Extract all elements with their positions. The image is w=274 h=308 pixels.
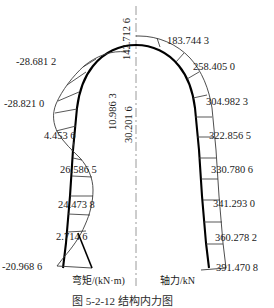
label-moment-5: 24.473 8 [58, 200, 95, 211]
label-crown-axial: 142.712 6 [122, 18, 133, 60]
figure-caption: 图 5-2-12 结构内力图 [72, 292, 173, 308]
label-axial-1: 183.744 3 [167, 36, 209, 47]
label-moment-3: 4.453 6 [44, 131, 76, 142]
label-moment-2: -28.821 0 [4, 99, 44, 110]
label-axial-2: 258.405 0 [193, 62, 235, 73]
label-moment-6: 2.714 6 [56, 232, 88, 243]
label-axial-8: 391.470 8 [216, 263, 258, 274]
label-axial-6: 341.293 0 [213, 199, 255, 210]
label-moment-7: -20.968 6 [2, 262, 42, 273]
label-crown-axial-2: 30.201 6 [124, 106, 135, 143]
label-axial-7: 360.278 2 [215, 233, 257, 244]
label-axial-4: 322.856 5 [209, 131, 251, 142]
axis-label-axial: 轴力/kN [160, 272, 195, 287]
label-axial-5: 330.780 6 [211, 165, 253, 176]
label-crown-moment: 10.986 3 [108, 93, 119, 130]
label-moment-1: -28.681 2 [16, 57, 56, 68]
label-moment-4: 26.586 5 [60, 165, 97, 176]
axis-label-moment: 弯矩/(kN·m) [72, 272, 125, 287]
label-axial-3: 304.982 3 [206, 97, 248, 108]
structure-outline-right [136, 45, 209, 268]
